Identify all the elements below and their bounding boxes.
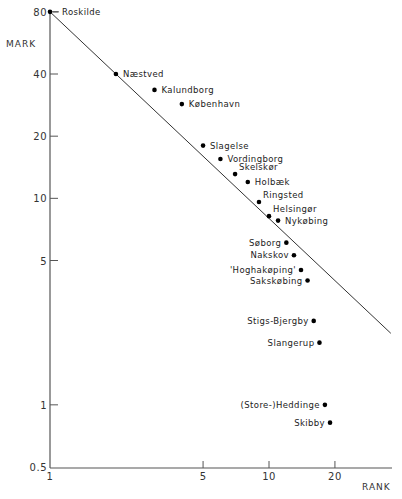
- axes: 0.51510204080151020: [30, 7, 392, 482]
- data-point: [328, 420, 333, 425]
- data-point-label: Nykøbing: [285, 216, 328, 226]
- data-point: [245, 180, 250, 185]
- data-point-label: Kalundborg: [161, 85, 214, 95]
- x-tick-label: 5: [200, 471, 207, 482]
- data-point: [114, 72, 119, 77]
- rank-size-chart: 0.51510204080151020 RoskildeNæstvedKalun…: [0, 0, 402, 499]
- y-tick-label: 1: [40, 400, 47, 411]
- data-points: RoskildeNæstvedKalundborgKøbenhavnSlagel…: [48, 7, 333, 428]
- rank-size-reference-line: [50, 12, 391, 333]
- data-point-label: Næstved: [123, 69, 164, 79]
- data-point: [257, 200, 262, 205]
- x-tick-label: 20: [328, 471, 342, 482]
- reference-line-group: [50, 12, 391, 333]
- data-point: [305, 278, 310, 283]
- data-point-label: Sakskøbing: [250, 276, 303, 286]
- data-point: [218, 157, 223, 162]
- data-point: [292, 253, 297, 258]
- data-point: [233, 172, 238, 177]
- x-tick-label: 10: [262, 471, 276, 482]
- data-point-label: (Store-)Heddinge: [241, 400, 320, 410]
- y-tick-label: 10: [33, 193, 47, 204]
- y-tick-label: 0.5: [30, 462, 47, 473]
- data-point-label: Slangerup: [268, 338, 315, 348]
- data-point: [323, 403, 328, 408]
- data-point: [311, 319, 316, 324]
- data-point-label: Ringsted: [263, 190, 304, 200]
- data-point-label: København: [189, 99, 240, 109]
- data-point: [201, 143, 206, 148]
- data-point: [299, 268, 304, 273]
- data-point: [284, 240, 289, 245]
- data-point: [267, 214, 272, 219]
- data-point-label: Slagelse: [210, 141, 249, 151]
- data-point: [180, 102, 185, 107]
- y-tick-label: 40: [33, 69, 47, 80]
- data-point-label: Skelskør: [239, 162, 278, 172]
- y-tick-label: 80: [33, 7, 47, 18]
- data-point-label: Holbæk: [255, 177, 290, 187]
- x-axis-title: RANK: [362, 482, 391, 492]
- y-axis-title: MARK: [6, 39, 36, 49]
- data-point-label: Søborg: [249, 238, 281, 248]
- data-point-label: Stigs-Bjergby: [247, 316, 308, 326]
- data-point-label: Roskilde: [62, 7, 101, 17]
- y-tick-label: 20: [33, 131, 47, 142]
- data-point: [317, 340, 322, 345]
- data-point-label: Nakskov: [250, 250, 289, 260]
- data-point: [276, 218, 281, 223]
- x-tick-label: 1: [47, 471, 54, 482]
- data-point: [48, 10, 53, 15]
- data-point-label: 'Hoghakøping': [230, 265, 296, 275]
- data-point: [152, 88, 157, 93]
- data-point-label: Skibby: [294, 418, 325, 428]
- data-point-label: Helsingør: [273, 204, 317, 214]
- y-tick-label: 5: [40, 256, 47, 267]
